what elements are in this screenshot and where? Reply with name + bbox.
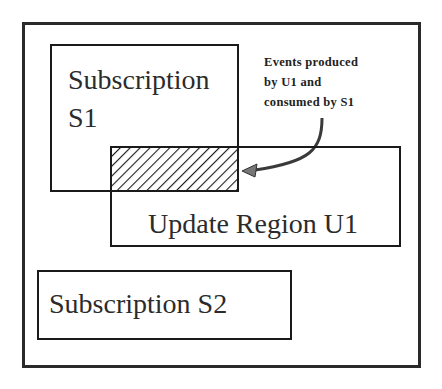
annotation-text: Events produced by U1 and consumed by S1 (264, 52, 358, 112)
subscription-s1-label-line1: Subscription (68, 66, 210, 94)
annotation-line-2: by U1 and (264, 72, 358, 92)
annotation-line-3: consumed by S1 (264, 92, 358, 112)
update-region-u1-label: Update Region U1 (148, 210, 358, 238)
annotation-line-1: Events produced (264, 52, 358, 72)
subscription-s1-label-line2: S1 (68, 104, 98, 132)
diagram-canvas: Subscription S1 Update Region U1 Subscri… (0, 0, 442, 389)
subscription-s2-label: Subscription S2 (49, 290, 227, 318)
